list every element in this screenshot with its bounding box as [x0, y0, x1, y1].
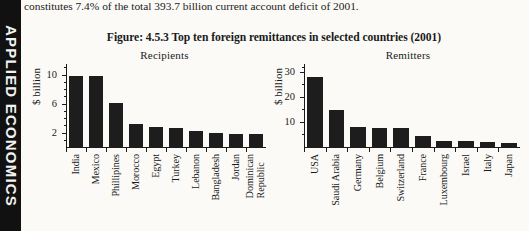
- bar-slot: [106, 64, 126, 148]
- y-axis-minor-tick: [64, 96, 67, 97]
- x-axis-label-slot: Jordan: [226, 153, 246, 227]
- chart-remitters-ylabel: $ billion: [272, 68, 284, 105]
- page-canvas: APPLIED ECONOMICS transfer and private f…: [0, 0, 529, 231]
- x-axis-tick: [498, 148, 499, 152]
- x-axis-label: Japan: [504, 154, 515, 177]
- bar-slot: [326, 64, 348, 148]
- x-axis-label: Turkey: [171, 154, 182, 182]
- y-axis-minor-tick: [64, 125, 67, 126]
- bar: [436, 141, 452, 148]
- x-axis-tick: [304, 148, 305, 152]
- y-axis-tick: 2: [62, 133, 66, 134]
- y-axis-minor-tick: [302, 134, 305, 135]
- y-axis-minor-tick: [64, 111, 67, 112]
- chart-remitters-plot: 102030: [304, 64, 520, 148]
- bar: [149, 127, 164, 148]
- bar-slot: [412, 64, 434, 148]
- x-axis-label: Germany: [353, 154, 364, 191]
- x-axis-tick: [246, 148, 247, 152]
- x-axis-tick: [66, 148, 67, 152]
- bar: [372, 128, 388, 148]
- x-axis-label: Morocco: [131, 154, 142, 190]
- bar: [350, 127, 366, 148]
- x-axis-label-slot: Saudi Arabia: [326, 153, 348, 227]
- y-axis-tick: 10: [62, 75, 66, 76]
- x-axis-label-slot: Morocco: [126, 153, 146, 227]
- y-axis-minor-tick: [302, 109, 305, 110]
- bar-slot: [434, 64, 456, 148]
- chart-remitters-xlabels: USASaudi ArabiaGermanyBelgiumSwitzerland…: [304, 153, 520, 227]
- bar: [501, 143, 517, 148]
- x-axis-label-slot: Egypt: [146, 153, 166, 227]
- bar-slot: [477, 64, 499, 148]
- bar-slot: [369, 64, 391, 148]
- bar: [169, 128, 184, 148]
- x-axis-label: Bangladesh: [211, 154, 222, 201]
- x-axis-tick: [226, 148, 227, 152]
- x-axis-tick: [369, 148, 370, 152]
- x-axis-tick: [434, 148, 435, 152]
- x-axis-label-slot: Switzerland: [390, 153, 412, 227]
- x-axis-label-slot: Phillipines: [106, 153, 126, 227]
- bar: [307, 77, 323, 148]
- x-axis-label: Jordan: [231, 154, 242, 181]
- bar: [229, 134, 244, 148]
- x-axis-label-slot: Italy: [477, 153, 499, 227]
- chart-recipients-ylabel: $ billion: [30, 68, 42, 105]
- chart-remitters-title: Remitters: [272, 49, 528, 61]
- x-axis-label: Lebanon: [191, 154, 202, 189]
- bar: [393, 128, 409, 148]
- bar-slot: [66, 64, 86, 148]
- book-spine-banner: APPLIED ECONOMICS: [0, 0, 21, 231]
- bar: [249, 134, 264, 148]
- y-axis-tick-label: 30: [285, 65, 296, 78]
- x-axis-tick: [166, 148, 167, 152]
- body-paragraph: transfer and private foreign flows, the …: [24, 0, 524, 13]
- x-axis-tick: [206, 148, 207, 152]
- y-axis-tick: 10: [300, 122, 304, 123]
- x-axis-tick: [347, 148, 348, 152]
- bar: [69, 76, 84, 148]
- x-axis-label-slot: Japan: [498, 153, 520, 227]
- x-axis-label-slot: Bangladesh: [206, 153, 226, 227]
- bar: [89, 76, 104, 148]
- y-axis-tick-label: 10: [285, 115, 296, 128]
- bar-slot: [498, 64, 520, 148]
- x-axis-tick: [186, 148, 187, 152]
- bar-slot: [304, 64, 326, 148]
- y-axis-tick: 30: [300, 72, 304, 73]
- spine-title: APPLIED ECONOMICS: [2, 24, 19, 206]
- bar: [415, 136, 431, 148]
- bar-slot: [455, 64, 477, 148]
- bar-slot: [126, 64, 146, 148]
- x-axis-tick: [86, 148, 87, 152]
- x-axis-label-slot: Belgium: [369, 153, 391, 227]
- x-axis-label: Italy: [482, 154, 493, 172]
- x-axis-label-slot: Turkey: [166, 153, 186, 227]
- x-axis-label-slot: Israel: [455, 153, 477, 227]
- bar-slot: [246, 64, 266, 148]
- chart-remitters: Remitters $ billion 102030 USASaudi Arab…: [272, 49, 528, 231]
- bar: [209, 133, 224, 148]
- y-axis-tick-label: 6: [52, 97, 57, 110]
- chart-recipients-title: Recipients: [30, 49, 275, 61]
- y-axis-minor-tick: [64, 89, 67, 90]
- x-axis-label: DominicanRepublic: [245, 154, 266, 198]
- y-axis-tick-label: 2: [52, 126, 57, 139]
- bar-slot: [186, 64, 206, 148]
- bar: [129, 124, 144, 148]
- x-axis-label-slot: France: [412, 153, 434, 227]
- x-axis-label: Switzerland: [396, 154, 407, 202]
- x-axis-label-slot: Germany: [347, 153, 369, 227]
- y-axis-minor-tick: [64, 140, 67, 141]
- x-axis-label-slot: USA: [304, 153, 326, 227]
- x-axis-label-slot: Lebanon: [186, 153, 206, 227]
- y-axis-minor-tick: [64, 118, 67, 119]
- x-axis-label: Luxembourg: [439, 154, 450, 205]
- x-axis-label: Belgium: [374, 154, 385, 188]
- x-axis-label-slot: DominicanRepublic: [246, 153, 266, 227]
- bar: [458, 141, 474, 148]
- y-axis-minor-tick: [302, 84, 305, 85]
- bar-slot: [166, 64, 186, 148]
- bar: [189, 131, 204, 148]
